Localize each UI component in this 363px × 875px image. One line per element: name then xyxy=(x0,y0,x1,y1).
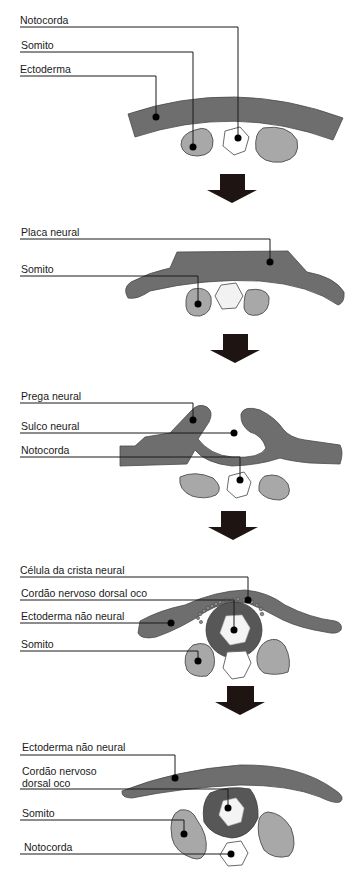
label-notochord: Notocorda xyxy=(24,841,73,853)
label-somite: Somito xyxy=(21,39,54,51)
notochord xyxy=(223,127,249,155)
down-arrow-icon xyxy=(208,511,258,540)
label-neural-fold: Prega neural xyxy=(21,390,81,402)
label-somite: Somito xyxy=(22,807,55,819)
stage-2: Placa neural Somito xyxy=(20,226,344,316)
notochord xyxy=(215,283,243,309)
somite-right xyxy=(258,812,294,857)
down-arrow-icon xyxy=(207,174,257,203)
label-non-neural-ectoderm: Ectoderma não neural xyxy=(22,741,125,753)
somite-left xyxy=(180,474,220,498)
somite-left xyxy=(181,128,213,156)
somite-right xyxy=(259,475,290,500)
label-notochord: Notocorda xyxy=(20,14,69,26)
label-somite: Somito xyxy=(21,263,54,275)
stage-4: Célula da crista neural Cordão nervoso d… xyxy=(20,564,341,679)
label-somite: Somito xyxy=(21,638,54,650)
label-non-neural-ectoderm: Ectoderma não neural xyxy=(21,610,124,622)
label-notochord: Notocorda xyxy=(21,444,70,456)
somite-left xyxy=(171,810,206,859)
label-neural-plate: Placa neural xyxy=(21,226,79,238)
neurulation-diagram: Notocorda Somito Ectoderma Placa neural … xyxy=(0,0,363,875)
down-arrow-icon xyxy=(215,686,265,715)
stage-3: Prega neural Sulco neural Notocorda xyxy=(20,390,342,500)
label-neural-crest-cell: Célula da crista neural xyxy=(20,564,124,576)
notochord xyxy=(223,651,251,679)
somite-right xyxy=(256,127,298,162)
label-neural-tube: Cordão nervoso dorsal oco xyxy=(21,587,147,599)
label-neural-groove: Sulco neural xyxy=(21,420,79,432)
notochord xyxy=(227,472,251,498)
somite-right xyxy=(257,639,290,674)
label-neural-tube-line1: Cordão nervoso xyxy=(22,765,97,777)
stage-1: Notocorda Somito Ectoderma xyxy=(20,14,343,162)
somite-right xyxy=(244,289,269,315)
down-arrow-icon xyxy=(210,334,260,363)
label-neural-tube-line2: dorsal oco xyxy=(22,777,71,789)
stage-5: Ectoderma não neural Cordão nervoso dors… xyxy=(20,741,342,866)
label-ectoderm: Ectoderma xyxy=(20,63,71,75)
